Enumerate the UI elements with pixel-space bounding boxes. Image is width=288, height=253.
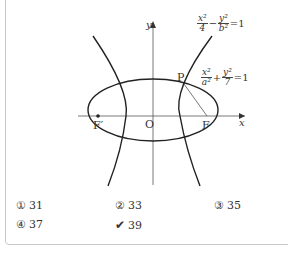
focus-f-label: F — [202, 120, 210, 131]
choice-marker: ① — [16, 199, 26, 212]
ell-x-den: a² — [202, 78, 211, 87]
choice-1[interactable]: ① 31 — [16, 199, 43, 212]
ell-rhs: =1 — [234, 72, 249, 83]
origin-label: O — [145, 119, 154, 130]
choice-2[interactable]: ② 33 — [115, 199, 142, 212]
choice-value: 35 — [227, 199, 241, 212]
ellipse-equation: x²a² + y²7 =1 — [200, 68, 249, 87]
choice-marker: ③ — [214, 199, 224, 212]
choice-3[interactable]: ③ 35 — [214, 199, 241, 212]
y-axis-label: y — [146, 20, 152, 30]
choice-marker: ② — [115, 199, 125, 212]
hyp-rhs: =1 — [230, 18, 245, 29]
hyperbola-equation: x²4 − y²b² =1 — [196, 14, 245, 33]
choice-value: 37 — [29, 218, 43, 231]
choice-value: 33 — [128, 199, 142, 212]
hyp-op: − — [209, 18, 217, 29]
choice-value: 39 — [128, 219, 142, 232]
checkmark-icon: ✔ — [115, 218, 125, 232]
hyp-x-den: 4 — [199, 24, 205, 33]
choice-marker: ④ — [16, 218, 26, 231]
ell-y-den: 7 — [225, 78, 231, 87]
x-axis-label: x — [239, 118, 245, 128]
ell-op: + — [213, 72, 221, 83]
choice-5-selected[interactable]: ✔ 39 — [115, 218, 142, 232]
point-p-label: P — [177, 72, 184, 83]
choice-value: 31 — [29, 199, 43, 212]
hyp-y-den: b² — [219, 24, 228, 33]
choice-4[interactable]: ④ 37 — [16, 218, 43, 231]
focus-f-prime-label: F′ — [93, 120, 103, 131]
